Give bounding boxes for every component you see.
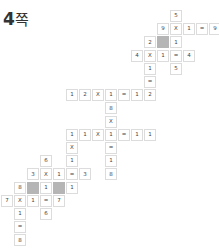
grid-cell: X [92,89,104,101]
grid-cell: 1 [131,89,143,101]
blank-answer-cell[interactable] [27,182,39,194]
grid-cell: 1 [66,155,78,167]
grid-cell: X [66,142,78,154]
blank-answer-cell[interactable] [53,182,65,194]
grid-cell: 3 [27,168,39,180]
grid-cell: 4 [131,50,143,62]
grid-cell: 1 [170,36,182,48]
grid-cell: 3 [79,168,91,180]
grid-cell: = [196,23,208,35]
grid-cell: 1 [105,89,117,101]
grid-cell: X [40,168,52,180]
grid-cell: = [118,89,130,101]
grid-cell: 1 [27,195,39,207]
grid-cell: 9 [209,23,219,35]
grid-cell: 1 [144,63,156,75]
grid-cell: 2 [144,36,156,48]
grid-cell: 1 [183,23,195,35]
grid-cell: = [40,195,52,207]
grid-cell: 7 [53,195,65,207]
blank-answer-cell[interactable] [157,36,169,48]
grid-cell: 1 [66,129,78,141]
grid-cell: 1 [105,155,117,167]
grid-cell: 7 [1,195,13,207]
grid-cell: 1 [157,50,169,62]
grid-cell: 4 [183,50,195,62]
grid-cell: = [170,50,182,62]
crossword-math-grid: 59X1=9214X1=415=12X1=128X11X1=11X=6113X1… [0,0,219,252]
grid-cell: = [66,168,78,180]
grid-cell: X [105,116,117,128]
grid-cell: X [144,50,156,62]
grid-cell: = [14,221,26,233]
grid-cell: 1 [53,168,65,180]
grid-cell: 1 [66,182,78,194]
grid-cell: = [118,129,130,141]
grid-cell: 5 [170,63,182,75]
grid-cell: 1 [66,89,78,101]
grid-cell: 2 [144,89,156,101]
grid-cell: 2 [79,89,91,101]
grid-cell: 6 [40,155,52,167]
grid-cell: 5 [170,10,182,22]
grid-cell: X [92,129,104,141]
grid-cell: 9 [157,23,169,35]
grid-cell: = [105,142,117,154]
grid-cell: 1 [144,129,156,141]
grid-cell: 8 [105,168,117,180]
grid-cell: = [144,76,156,88]
grid-cell: 1 [79,129,91,141]
grid-cell: 6 [40,208,52,220]
grid-cell: 8 [14,182,26,194]
grid-cell: 8 [14,234,26,246]
grid-cell: 1 [131,129,143,141]
grid-cell: 8 [105,102,117,114]
grid-cell: X [14,195,26,207]
grid-cell: 1 [105,129,117,141]
grid-cell: 1 [14,208,26,220]
grid-cell: X [170,23,182,35]
grid-cell: 1 [40,182,52,194]
